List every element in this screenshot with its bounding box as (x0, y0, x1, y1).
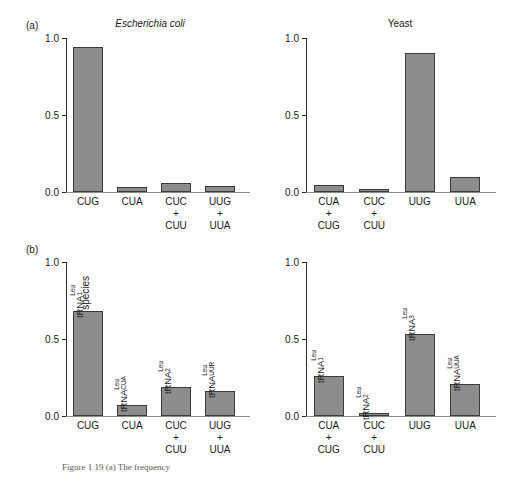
y-tick (302, 416, 306, 417)
x-tick-label: UUA (455, 420, 476, 432)
bar-annotation: tRNALeu1 (314, 343, 325, 383)
y-tick (302, 262, 306, 263)
x-tick-label: UUG (409, 420, 431, 432)
plot-area: 0.00.51.0tRNALeu1CUA+CUGtRNALeu2CUC+CUUt… (306, 262, 488, 416)
y-axis-line (306, 262, 307, 416)
y-tick-label: 0.5 (285, 334, 299, 345)
x-axis-line (306, 416, 496, 417)
y-tick (302, 339, 306, 340)
figure-caption: Figure 1 19 (a) The frequency (62, 462, 170, 472)
bar-annotation: tRNALeu2 (359, 380, 370, 420)
figure-root: (a)Escherichia coli0.00.51.0Frequency of… (0, 0, 514, 477)
y-tick-label: 1.0 (285, 257, 299, 268)
y-tick-label: 0.0 (285, 411, 299, 422)
bar-annotation: tRNALeuUUA (450, 350, 461, 390)
bar (405, 334, 435, 416)
x-tick-label: CUC+CUU (363, 420, 385, 456)
x-tick-label: CUA+CUG (318, 420, 340, 456)
panel-4: 0.00.51.0tRNALeu1CUA+CUGtRNALeu2CUC+CUUt… (0, 0, 514, 477)
bar-annotation: tRNALeu3 (405, 301, 416, 341)
